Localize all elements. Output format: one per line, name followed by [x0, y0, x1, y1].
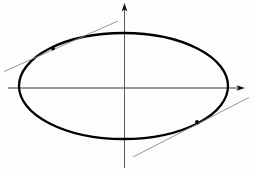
tangency-point-upper-left — [51, 47, 55, 51]
geometry-diagram — [0, 0, 255, 171]
canvas-background — [0, 0, 255, 171]
tangency-point-lower-right — [195, 120, 199, 124]
figure-canvas — [0, 0, 255, 171]
